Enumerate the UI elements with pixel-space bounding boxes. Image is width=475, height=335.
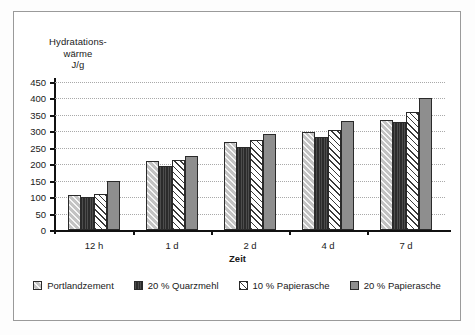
y-axis-tick-label: 100 [30, 192, 46, 203]
bar [302, 132, 315, 230]
y-axis-tick [50, 98, 55, 100]
bar [146, 161, 159, 230]
bar [185, 156, 198, 230]
bar [419, 98, 432, 230]
legend-item-label: Portlandzement [47, 280, 114, 291]
x-axis-tick [133, 230, 135, 235]
x-axis-line [54, 230, 451, 232]
legend-item-label: 10 % Papierasche [253, 280, 330, 291]
y-axis-tick-label: 350 [30, 109, 46, 120]
y-axis-tick [50, 230, 55, 232]
legend-item: 20 % Papierasche [350, 280, 441, 291]
legend-item: Portlandzement [33, 280, 114, 291]
y-axis-tick-label: 250 [30, 142, 46, 153]
y-axis-tick [50, 148, 55, 150]
x-axis-tick-label: 12 h [85, 240, 104, 251]
plot-area: 05010015020025030035040045012 h1 d2 d4 d… [55, 82, 445, 230]
bar [341, 121, 354, 230]
gridline [55, 98, 445, 99]
bar [172, 160, 185, 230]
y-axis-tick-label: 400 [30, 93, 46, 104]
y-axis-tick [50, 164, 55, 166]
y-axis-tick [50, 197, 55, 199]
chart-legend: Portlandzement20 % Quarzmehl10 % Papiera… [13, 276, 461, 294]
chart-page: Hydratations- wärme J/g 0501001502002503… [0, 0, 475, 335]
bar [250, 140, 263, 230]
bar [380, 120, 393, 230]
bar [406, 112, 419, 230]
y-axis-line [54, 78, 56, 234]
y-axis-tick [50, 214, 55, 216]
y-axis-tick [50, 181, 55, 183]
legend-swatch-icon [134, 281, 143, 290]
bar [159, 166, 172, 230]
legend-item-label: 20 % Papierasche [364, 280, 441, 291]
legend-item: 20 % Quarzmehl [134, 280, 219, 291]
x-axis-tick [289, 230, 291, 235]
y-axis-tick-label: 0 [41, 225, 46, 236]
y-axis-tick-label: 200 [30, 159, 46, 170]
bar [107, 181, 120, 230]
y-axis-title: Hydratations- wärme J/g [30, 36, 126, 71]
y-axis-title-line-1: Hydratations- [30, 36, 126, 48]
bar [94, 194, 107, 230]
y-axis-tick [50, 115, 55, 117]
bar [237, 147, 250, 230]
bar [328, 130, 341, 230]
legend-swatch-icon [33, 281, 42, 290]
legend-swatch-icon [239, 281, 248, 290]
x-axis-tick-label: 7 d [399, 240, 412, 251]
y-axis-tick-label: 150 [30, 175, 46, 186]
y-axis-tick-label: 50 [35, 208, 46, 219]
x-axis-title: Zeit [0, 253, 475, 264]
x-axis-tick [211, 230, 213, 235]
x-axis-tick-label: 2 d [243, 240, 256, 251]
bar [81, 197, 94, 230]
x-axis-tick [367, 230, 369, 235]
bar [315, 137, 328, 230]
gridline [55, 82, 445, 83]
legend-item: 10 % Papierasche [239, 280, 330, 291]
x-axis-tick-label: 4 d [321, 240, 334, 251]
bar [224, 142, 237, 230]
bar [263, 134, 276, 230]
legend-swatch-icon [350, 281, 359, 290]
x-axis-tick-label: 1 d [165, 240, 178, 251]
legend-item-label: 20 % Quarzmehl [148, 280, 219, 291]
y-axis-tick-label: 300 [30, 126, 46, 137]
bar [393, 122, 406, 230]
y-axis-tick [50, 82, 55, 84]
y-axis-title-line-2: wärme [30, 48, 126, 60]
y-axis-tick [50, 131, 55, 133]
y-axis-tick-label: 450 [30, 77, 46, 88]
y-axis-title-line-3: J/g [30, 59, 126, 71]
bar [68, 195, 81, 230]
gridline [55, 115, 445, 116]
